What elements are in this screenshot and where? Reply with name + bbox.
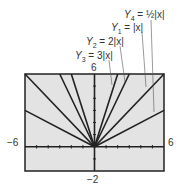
ymin-label: −2 — [87, 175, 98, 185]
xmin-label: −6 — [7, 138, 18, 148]
label-y2: Y2 = 2|x| — [86, 37, 124, 51]
graph-svg — [0, 0, 179, 193]
xmax-label: 6 — [168, 138, 174, 148]
ymax-label: 6 — [91, 63, 97, 73]
label-y1: Y1 = |x| — [111, 23, 143, 37]
